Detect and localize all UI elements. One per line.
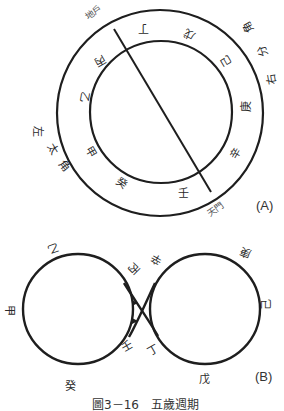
label-right-jiao: 角 [240, 19, 257, 35]
stem-ren: 壬 [178, 187, 189, 200]
label-right-fen: 分 [255, 44, 271, 59]
label-right-you: 右 [263, 73, 279, 86]
stem-ding: 丁 [138, 22, 149, 35]
dihu-tianmen-axis [114, 29, 211, 192]
stem-gui: 癸 [113, 174, 130, 192]
stem-geng: 庚 [239, 101, 253, 112]
b-stem-bing: 丙 [125, 260, 142, 277]
b-stem-xin: 辛 [148, 251, 165, 269]
five-year-cycle-figure: 地戶 天門 左 太 角 角 分 右 丁 戊 己 庚 辛 壬 癸 甲 乙 丙 (A… [0, 0, 284, 411]
label-left-jiao: 角 [56, 158, 73, 175]
diagram-a: 地戶 天門 左 太 角 角 分 右 丁 戊 己 庚 辛 壬 癸 甲 乙 丙 (A… [31, 2, 279, 218]
b-stem-ji: 己 [260, 299, 273, 310]
b-stem-gui: 癸 [65, 379, 76, 393]
label-left-tai: 太 [44, 141, 61, 157]
stem-wu: 戊 [181, 26, 197, 43]
stem-yi: 乙 [77, 90, 92, 103]
b-stem-geng: 庚 [238, 244, 253, 261]
right-loop [150, 254, 260, 364]
label-dihu: 地戶 [83, 2, 104, 21]
figure-caption: 圖3－16 五歲週期 [92, 398, 199, 411]
diagram-a-tag: (A) [256, 198, 273, 213]
stem-jia: 甲 [82, 144, 99, 160]
stem-ji: 己 [218, 53, 235, 69]
b-stem-wu: 戊 [199, 373, 210, 386]
b-stem-jia: 甲 [3, 305, 16, 316]
label-left-zuo: 左 [31, 126, 44, 137]
stem-xin: 辛 [226, 145, 244, 162]
left-loop [23, 254, 133, 364]
diagram-b: 乙 甲 癸 丙 壬 辛 丁 庚 己 戊 (B) [3, 240, 273, 393]
b-stem-ren: 壬 [119, 338, 135, 355]
b-stem-yi: 乙 [46, 240, 61, 256]
b-stem-ding: 丁 [145, 342, 161, 359]
diagram-b-tag: (B) [255, 369, 272, 384]
inner-ring [90, 41, 232, 183]
